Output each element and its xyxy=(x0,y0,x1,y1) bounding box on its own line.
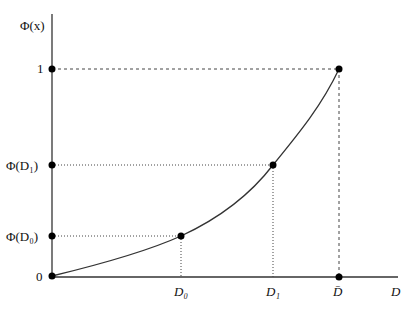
point-curve-d1 xyxy=(270,162,277,169)
y-tick-phi-d1: Φ(D₁) xyxy=(6,158,38,173)
point-y-phi-d0 xyxy=(49,233,56,240)
point-curve-d0 xyxy=(178,233,185,240)
point-x-dbar xyxy=(336,274,343,281)
point-y-one xyxy=(49,66,56,73)
point-origin xyxy=(49,273,56,280)
point-y-phi-d1 xyxy=(49,162,56,169)
x-tick-d0: D₀ xyxy=(173,284,188,299)
x-tick-d1: D₁ xyxy=(265,284,280,299)
point-curve-end xyxy=(336,66,343,73)
y-axis-label: Φ(x) xyxy=(20,18,45,33)
x-axis-label: D xyxy=(390,284,401,299)
x-tick-dbar: D̄ xyxy=(332,284,343,299)
cdf-curve xyxy=(52,69,339,276)
y-tick-zero: 0 xyxy=(36,269,43,284)
y-tick-one: 1 xyxy=(37,61,44,76)
y-tick-phi-d0: Φ(D₀) xyxy=(6,229,38,244)
cdf-diagram: Φ(x) 1 Φ(D₁) Φ(D₀) 0 D₀ D₁ D̄ D xyxy=(0,0,413,312)
